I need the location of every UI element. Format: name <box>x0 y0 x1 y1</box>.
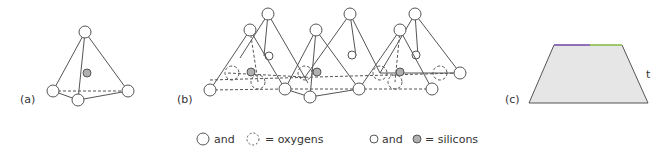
legend-silicon-open-icon <box>370 135 378 143</box>
silicate-structure-figure: (a) (b) (c) t and = oxygens and = silico… <box>0 0 671 151</box>
panel-c-side-label: t <box>646 68 651 81</box>
legend-oxygen-and: and <box>214 133 235 146</box>
legend-silicon-text: = silicons <box>425 133 478 146</box>
panel-c-trapezoid <box>529 45 648 103</box>
panel-a-tetrahedron <box>47 26 134 106</box>
panel-c-label: (c) <box>505 93 520 106</box>
oxygen-atom-icon <box>79 26 91 38</box>
legend-oxygen-dashed-icon <box>247 133 259 145</box>
oxygen-atom-icon <box>47 85 59 97</box>
oxygen-atom-icon <box>122 85 134 97</box>
legend-oxygen-solid-icon <box>197 133 209 145</box>
panel-b-label: (b) <box>177 93 193 106</box>
oxygen-atom-icon <box>72 94 84 106</box>
panel-a-label: (a) <box>20 93 35 106</box>
panel-b-tetrahedra-chain <box>204 8 466 103</box>
legend-silicon-and: and <box>382 133 403 146</box>
legend-silicon-filled-icon <box>413 135 421 143</box>
legend-oxygen-text: = oxygens <box>265 133 324 146</box>
silicon-atom-icon <box>83 69 91 77</box>
